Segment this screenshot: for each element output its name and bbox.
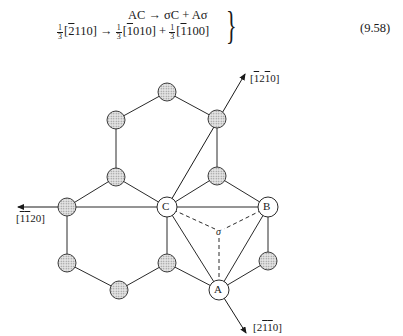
shaded-atom <box>158 254 176 272</box>
atom-b-label: B <box>263 200 270 212</box>
shaded-atom <box>259 252 277 270</box>
direction-label-left: [1120] <box>16 212 45 224</box>
atom-c-label: C <box>162 200 169 212</box>
lattice-diagram <box>0 0 403 336</box>
direction-label-up-right: [1210] <box>250 72 279 84</box>
shaded-atom <box>107 111 125 129</box>
atom-a-label: A <box>214 283 222 295</box>
shaded-atom <box>208 167 226 185</box>
shaded-atom <box>107 168 125 186</box>
shaded-atom <box>208 110 226 128</box>
sigma-label: σ <box>216 226 221 237</box>
partial-dislocation-dashes <box>167 207 268 290</box>
direction-label-down-right: [2110] <box>253 321 282 333</box>
shaded-atoms <box>58 83 277 299</box>
arrow-up-right <box>167 74 245 207</box>
shaded-atom <box>158 83 176 101</box>
shaded-atom <box>58 198 76 216</box>
shaded-atom <box>110 281 128 299</box>
shaded-atom <box>58 254 76 272</box>
